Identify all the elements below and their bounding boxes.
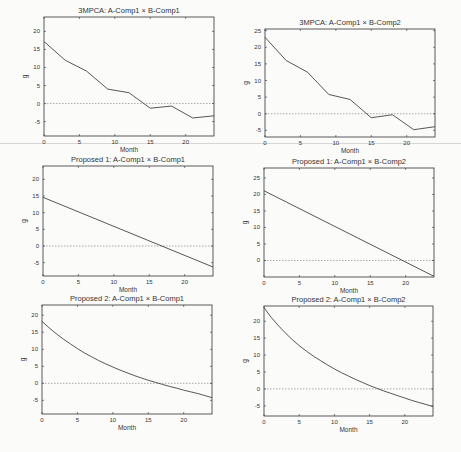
- axes-frame: [264, 306, 433, 416]
- x-tick-label: 0: [262, 280, 266, 286]
- x-axis-label: Month: [340, 287, 358, 294]
- data-series-line: [44, 42, 214, 118]
- y-tick-label: 5: [258, 94, 262, 100]
- data-series-line: [264, 191, 434, 277]
- y-tick-label: 10: [32, 210, 39, 216]
- x-tick-label: 5: [298, 280, 302, 286]
- subplot-title: Proposed 2: A-Comp1 × B-Comp1: [70, 294, 184, 303]
- x-tick-label: 10: [111, 139, 118, 145]
- subplot-title: Proposed 1: A-Comp1 × B-Comp1: [71, 155, 185, 164]
- x-tick-label: 20: [182, 139, 189, 145]
- y-tick-label: 10: [254, 78, 261, 84]
- y-tick-label: 20: [253, 318, 260, 324]
- y-tick-label: 15: [32, 193, 39, 199]
- y-tick-label: 5: [35, 363, 39, 369]
- x-tick-label: 20: [401, 419, 408, 425]
- subplot-title: Proposed 1: A-Comp1 × B-Comp2: [292, 157, 406, 166]
- x-tick-label: 10: [110, 279, 117, 285]
- x-tick-label: 5: [78, 139, 82, 145]
- x-tick-label: 5: [76, 417, 80, 423]
- y-axis-label: g: [241, 220, 249, 224]
- x-axis-label: Month: [341, 147, 359, 154]
- subplot-4: Proposed 2: A-Comp1 × B-Comp105101520-50…: [19, 294, 212, 431]
- data-series-line: [43, 197, 213, 267]
- y-tick-label: 0: [257, 257, 261, 263]
- y-axis-label: g: [21, 74, 29, 78]
- y-tick-label: -5: [33, 397, 39, 403]
- subplot-5: Proposed 2: A-Comp1 × B-Comp205101520-50…: [241, 295, 433, 433]
- subplot-2: Proposed 1: A-Comp1 × B-Comp105101520-50…: [20, 155, 213, 293]
- x-tick-label: 10: [332, 140, 339, 146]
- y-tick-label: 20: [32, 176, 39, 182]
- x-tick-label: 20: [181, 279, 188, 285]
- y-tick-label: 0: [36, 243, 40, 249]
- y-tick-label: 25: [254, 28, 261, 34]
- subplot-title: Proposed 2: A-Comp1 × B-Comp2: [291, 295, 405, 304]
- y-tick-label: 10: [31, 346, 38, 352]
- y-tick-label: 10: [33, 64, 40, 70]
- y-tick-label: 15: [31, 329, 38, 335]
- data-series-line: [264, 308, 433, 407]
- y-tick-label: 10: [253, 352, 260, 358]
- y-axis-label: g: [20, 219, 28, 223]
- axes-frame: [44, 17, 214, 136]
- y-tick-label: 15: [254, 61, 261, 67]
- x-tick-label: 20: [402, 280, 409, 286]
- x-tick-label: 15: [146, 279, 153, 285]
- x-tick-label: 0: [42, 139, 46, 145]
- figure: 3MPCA: A-Comp1 × B-Comp105101520-5051015…: [0, 0, 461, 452]
- x-tick-label: 20: [180, 417, 187, 423]
- subplot-title: 3MPCA: A-Comp1 × B-Comp1: [78, 6, 180, 15]
- x-tick-label: 0: [262, 419, 266, 425]
- x-axis-label: Month: [120, 146, 138, 153]
- x-axis-label: Month: [118, 424, 136, 431]
- y-tick-label: 20: [254, 44, 261, 50]
- x-tick-label: 0: [263, 140, 267, 146]
- subplot-1: 3MPCA: A-Comp1 × B-Comp205101520-5051015…: [242, 18, 435, 154]
- x-tick-label: 10: [109, 417, 116, 423]
- x-tick-label: 10: [331, 280, 338, 286]
- axes-frame: [265, 29, 435, 137]
- y-tick-label: 0: [37, 101, 41, 107]
- y-tick-label: -5: [255, 403, 261, 409]
- y-tick-label: -5: [35, 119, 41, 125]
- axes-frame: [42, 305, 212, 414]
- x-tick-label: 0: [41, 279, 45, 285]
- y-tick-label: -5: [256, 127, 262, 133]
- x-axis-label: Month: [119, 286, 137, 293]
- y-tick-label: 0: [258, 111, 262, 117]
- y-tick-label: 5: [37, 83, 41, 89]
- y-tick-label: 20: [31, 312, 38, 318]
- x-tick-label: 20: [403, 140, 410, 146]
- y-tick-label: 20: [253, 191, 260, 197]
- x-tick-label: 15: [366, 419, 373, 425]
- y-tick-label: 5: [257, 369, 261, 375]
- y-axis-label: g: [241, 359, 249, 363]
- y-tick-label: 10: [253, 224, 260, 230]
- y-tick-label: 15: [253, 335, 260, 341]
- y-tick-label: -5: [34, 260, 40, 266]
- y-tick-label: 5: [257, 241, 261, 247]
- x-tick-label: 10: [331, 419, 338, 425]
- y-axis-label: g: [19, 357, 27, 361]
- axes-frame: [43, 166, 213, 276]
- y-tick-label: 0: [35, 380, 39, 386]
- y-tick-label: 25: [253, 175, 260, 181]
- y-tick-label: 5: [36, 226, 40, 232]
- y-axis-label: g: [242, 81, 250, 85]
- x-tick-label: 15: [145, 417, 152, 423]
- data-series-line: [265, 37, 435, 129]
- x-tick-label: 5: [299, 140, 303, 146]
- x-axis-label: Month: [339, 426, 357, 433]
- y-tick-label: 15: [253, 208, 260, 214]
- subplot-title: 3MPCA: A-Comp1 × B-Comp2: [299, 18, 401, 27]
- x-tick-label: 15: [368, 140, 375, 146]
- subplot-0: 3MPCA: A-Comp1 × B-Comp105101520-5051015…: [21, 6, 214, 153]
- data-series-line: [42, 321, 212, 397]
- y-tick-label: 0: [257, 386, 261, 392]
- x-tick-label: 5: [77, 279, 81, 285]
- x-tick-label: 15: [367, 280, 374, 286]
- x-tick-label: 5: [298, 419, 302, 425]
- y-tick-label: 15: [33, 46, 40, 52]
- y-tick-label: 20: [33, 28, 40, 34]
